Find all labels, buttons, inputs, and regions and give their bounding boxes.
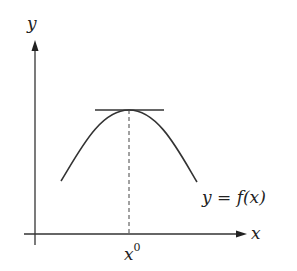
diagram-canvas: y x y = f(x) x0 xyxy=(0,0,297,271)
point-label: x0 xyxy=(124,244,141,263)
point-label-base: x xyxy=(124,244,134,264)
y-axis-label: y xyxy=(27,15,37,32)
point-label-superscript: 0 xyxy=(134,241,141,254)
y-axis-arrow-icon xyxy=(32,40,39,51)
x-axis-label: x xyxy=(251,225,261,242)
x-axis-arrow-icon xyxy=(236,231,247,238)
curve-label: y = f(x) xyxy=(202,189,266,206)
